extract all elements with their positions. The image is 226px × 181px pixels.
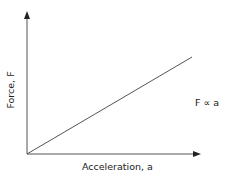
y-axis-label: Force, F (5, 71, 16, 108)
chart-canvas (0, 0, 226, 181)
x-axis-label: Acceleration, a (82, 161, 153, 172)
x-axis-arrow-icon (193, 151, 201, 157)
force-acceleration-line (27, 57, 192, 154)
proportionality-annotation: F ∝ a (195, 97, 219, 108)
y-axis-arrow-icon (24, 11, 30, 19)
